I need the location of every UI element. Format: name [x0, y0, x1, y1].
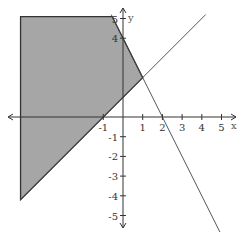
y-tick-label: -5 — [108, 211, 118, 222]
x-axis-label: x — [231, 120, 237, 131]
y-tick-label: -4 — [108, 191, 118, 202]
shaded-polygon — [21, 17, 143, 200]
y-tick-label: 4 — [112, 33, 118, 44]
y-tick-label: 5 — [112, 14, 118, 25]
shaded-region — [21, 17, 143, 200]
y-tick-label: -1 — [108, 132, 118, 143]
x-tick-label: 3 — [179, 122, 185, 133]
x-tick-label: 1 — [140, 122, 146, 133]
x-tick-label: -1 — [98, 122, 108, 133]
boundary-line — [111, 15, 225, 232]
y-tick-label: -3 — [108, 171, 118, 182]
x-tick-label: 4 — [199, 122, 205, 133]
coordinate-graph: -11234554-1-2-3-4-5 x y — [0, 0, 243, 232]
y-tick-label: -2 — [108, 151, 118, 162]
x-tick-label: 2 — [159, 122, 165, 133]
x-tick-label: 5 — [218, 122, 224, 133]
y-axis-label: y — [127, 12, 134, 23]
